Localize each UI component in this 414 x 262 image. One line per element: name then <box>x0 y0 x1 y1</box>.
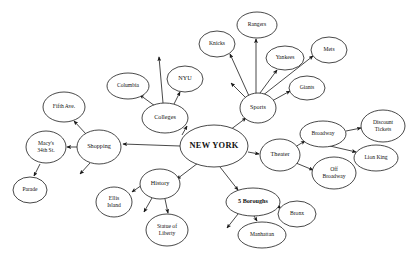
node-discount-tickets[interactable]: DiscountTickets <box>361 110 405 142</box>
node-mets[interactable]: Mets <box>311 37 347 63</box>
node-yankees[interactable]: Yankees <box>266 46 304 70</box>
node-label-5-boroughs: 5 Boroughs <box>238 197 269 204</box>
node-label-shopping: Shopping <box>87 142 111 149</box>
mindmap-canvas: NEW YORKSportsRangersKnicksYankeesMetsGi… <box>0 0 414 262</box>
node-broadway[interactable]: Broadway <box>300 121 346 147</box>
edge-sports-to-giants <box>272 91 290 101</box>
edge-history-to-statue-of-liberty <box>165 199 168 213</box>
node-label-colleges: Colleges <box>154 113 176 120</box>
edge-new-york-to-history <box>177 163 198 179</box>
edge-macys-34th-st-to-parade <box>34 164 40 176</box>
node-history[interactable]: History <box>140 169 180 199</box>
node-label-lion-king: Lion King <box>364 154 387 160</box>
edge-history-to-stub-down <box>144 198 152 212</box>
edge-colleges-to-columbia <box>140 95 155 106</box>
node-fifth-ave[interactable]: Fifth Ave. <box>43 92 85 122</box>
edge-theater-to-off-broadway <box>296 163 313 170</box>
node-5-boroughs[interactable]: 5 Boroughs <box>226 188 280 216</box>
node-label-off-broadway: Broadway <box>323 173 346 179</box>
node-bronx[interactable]: Bronx <box>278 201 316 227</box>
node-label-new-york: NEW YORK <box>189 141 238 150</box>
node-label-statue-of-liberty: Liberty <box>159 230 176 236</box>
node-label-macys-34th-st: 34th St. <box>37 147 55 153</box>
edge-new-york-to-shopping <box>123 144 180 146</box>
node-label-history: History <box>151 179 170 186</box>
node-colleges[interactable]: Colleges <box>142 103 188 133</box>
node-lion-king[interactable]: Lion King <box>354 145 398 171</box>
node-nyu[interactable]: NYU <box>167 66 203 92</box>
node-label-mets: Mets <box>323 46 334 52</box>
node-rangers[interactable]: Rangers <box>237 12 277 38</box>
edge-new-york-to-theater <box>248 152 259 154</box>
node-columbia[interactable]: Columbia <box>107 73 149 99</box>
edge-colleges-to-stub-up <box>159 57 163 103</box>
edge-5-boroughs-to-stub-down <box>227 214 238 228</box>
edge-5-boroughs-to-manhattan <box>254 216 257 221</box>
node-sports[interactable]: Sports <box>240 93 276 123</box>
edge-shopping-to-fifth-ave <box>74 121 86 134</box>
node-label-sports: Sports <box>250 103 266 110</box>
node-giants[interactable]: Giants <box>289 76 325 100</box>
node-label-columbia: Columbia <box>117 82 140 88</box>
node-off-broadway[interactable]: OffBroadway <box>312 157 356 189</box>
mindmap-diagram: NEW YORKSportsRangersKnicksYankeesMetsGi… <box>0 0 414 262</box>
node-label-bronx: Bronx <box>290 210 304 216</box>
node-new-york[interactable]: NEW YORK <box>180 125 248 167</box>
node-label-manhattan: Manhattan <box>250 231 274 237</box>
node-knicks[interactable]: Knicks <box>199 31 235 57</box>
node-label-broadway: Broadway <box>312 130 335 136</box>
node-statue-of-liberty[interactable]: Statue ofLiberty <box>146 214 188 246</box>
node-macys-34th-st[interactable]: Macy's34th St. <box>26 131 66 163</box>
node-label-nyu: NYU <box>178 74 192 81</box>
edge-shopping-to-stub-down <box>80 163 90 174</box>
edge-broadway-to-discount-tickets <box>346 128 361 131</box>
node-shopping[interactable]: Shopping <box>77 130 121 164</box>
edge-broadway-to-lion-king <box>330 146 356 152</box>
node-label-fifth-ave: Fifth Ave. <box>53 103 76 109</box>
node-ellis-island[interactable]: EllisIsland <box>96 187 132 217</box>
edge-sports-to-knicks <box>230 54 249 96</box>
node-label-knicks: Knicks <box>209 40 225 46</box>
edge-sports-to-yankees <box>260 70 277 93</box>
node-label-macys-34th-st: Macy's <box>38 140 54 146</box>
nodes-layer: NEW YORKSportsRangersKnicksYankeesMetsGi… <box>13 12 405 248</box>
node-label-giants: Giants <box>300 84 315 90</box>
node-label-off-broadway: Off <box>330 166 338 172</box>
node-theater[interactable]: Theater <box>260 139 300 171</box>
node-label-discount-tickets: Discount <box>373 119 394 125</box>
node-label-rangers: Rangers <box>248 21 266 27</box>
node-label-parade: Parade <box>22 186 38 192</box>
node-manhattan[interactable]: Manhattan <box>238 222 286 248</box>
node-label-theater: Theater <box>271 150 290 157</box>
node-label-statue-of-liberty: Statue of <box>157 223 177 229</box>
edge-colleges-to-nyu <box>174 92 180 104</box>
node-parade[interactable]: Parade <box>13 177 47 203</box>
edge-new-york-to-5-boroughs <box>220 167 238 190</box>
node-label-discount-tickets: Tickets <box>375 126 391 132</box>
node-label-ellis-island: Ellis <box>109 195 119 201</box>
node-label-yankees: Yankees <box>276 54 295 60</box>
node-label-ellis-island: Island <box>107 202 121 208</box>
